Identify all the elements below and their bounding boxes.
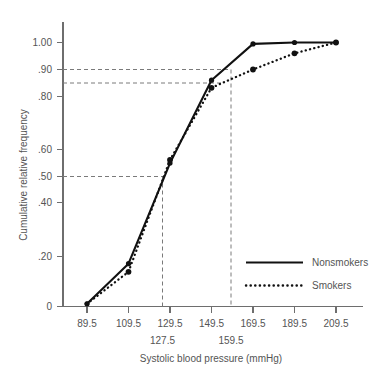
y-tick-label-60: .60 (38, 144, 52, 155)
y-tick-label-80: .80 (38, 91, 52, 102)
y-tick-labels: 1.00 .90 .80 .60 .50 .40 .20 0 (33, 37, 53, 312)
ogive-chart: 1.00 .90 .80 .60 .50 .40 .20 0 89.5 109.… (0, 0, 382, 379)
x-secondary-label-127-5: 127.5 (150, 335, 175, 346)
x-tick-label-89-5: 89.5 (77, 318, 97, 329)
y-axis-title: Cumulative relative frequency (18, 109, 29, 241)
data-point (126, 269, 132, 275)
reference-lines (63, 70, 231, 307)
data-point (250, 41, 255, 46)
cumulative-frequency-figure: 1.00 .90 .80 .60 .50 .40 .20 0 89.5 109.… (0, 0, 382, 379)
x-tick-label-129-5: 129.5 (157, 318, 182, 329)
x-axis-title: Systolic blood pressure (mmHg) (140, 353, 282, 364)
x-tick-label-109-5: 109.5 (116, 318, 141, 329)
data-point (84, 301, 89, 306)
series-nonsmokers (84, 40, 338, 307)
data-point (250, 67, 256, 73)
y-tick-label-20: .20 (38, 251, 52, 262)
x-secondary-label-159-5: 159.5 (218, 335, 243, 346)
data-point (167, 161, 172, 166)
y-axis (57, 22, 63, 307)
y-tick-label-40: .40 (38, 197, 52, 208)
x-tick-labels: 89.5 109.5 129.5 149.5 169.5 189.5 209.5 (77, 318, 349, 329)
data-point (292, 40, 297, 45)
legend-label-smokers: Smokers (312, 280, 351, 291)
data-point (333, 40, 338, 45)
legend: Nonsmokers Smokers (246, 257, 368, 291)
x-secondary-labels: 127.5 159.5 (150, 335, 244, 346)
y-tick-label-100: 1.00 (33, 37, 53, 48)
data-point (209, 78, 214, 83)
data-point (292, 50, 298, 56)
x-tick-label-149-5: 149.5 (199, 318, 224, 329)
y-tick-label-50: .50 (38, 171, 52, 182)
legend-label-nonsmokers: Nonsmokers (312, 257, 368, 268)
x-tick-label-189-5: 189.5 (282, 318, 307, 329)
x-axis (57, 307, 363, 314)
y-tick-label-90: .90 (38, 64, 52, 75)
data-point (126, 261, 131, 266)
x-tick-label-169-5: 169.5 (240, 318, 265, 329)
y-tick-label-0: 0 (46, 301, 52, 312)
x-tick-label-209-5: 209.5 (323, 318, 348, 329)
